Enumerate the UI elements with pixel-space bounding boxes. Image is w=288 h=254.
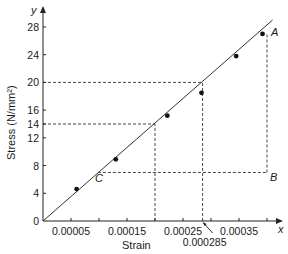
data-point: [234, 54, 239, 59]
y-tick-label: 16: [27, 104, 39, 116]
annotations: ABC0.000285: [95, 26, 278, 248]
y-axis-arrow-icon: [40, 6, 46, 13]
data-point: [260, 31, 265, 36]
point-b-label: B: [270, 171, 277, 183]
x-tick-label: 0.00005: [52, 225, 90, 237]
tick-labels: 0.000050.000150.000250.00035048121416202…: [27, 21, 267, 237]
y-tick-label: 12: [27, 132, 39, 144]
y-axis-letter: y: [30, 4, 38, 16]
dashed-guides: [43, 33, 267, 221]
strain-0.000285-label: 0.000285: [183, 236, 227, 248]
data-point: [199, 90, 204, 95]
point-a-label: A: [270, 26, 278, 38]
x-axis-letter: x: [277, 223, 284, 235]
y-tick-label: 28: [27, 21, 39, 33]
y-tick-label: 0: [33, 215, 39, 227]
stress-strain-chart: 0.000050.000150.000250.00035048121416202…: [0, 0, 288, 254]
x-tick-label: 0.00015: [108, 225, 146, 237]
y-tick-label: 4: [33, 187, 39, 199]
x-axis-label: Strain: [122, 239, 151, 251]
y-axis-label: Stress (N/mm²): [5, 85, 17, 160]
data-point: [165, 113, 170, 118]
y-tick-label: 14: [27, 118, 39, 130]
data-points: [74, 31, 265, 191]
y-tick-label: 20: [27, 76, 39, 88]
data-point: [113, 157, 118, 162]
data-point: [74, 187, 79, 192]
y-tick-label: 24: [27, 49, 39, 61]
point-c-label: C: [95, 172, 103, 184]
y-tick-label: 8: [33, 160, 39, 172]
